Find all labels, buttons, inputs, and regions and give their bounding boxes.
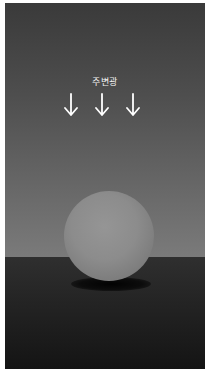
ambient-light-diagram: 주변광 [5, 3, 205, 369]
sphere [64, 191, 154, 281]
arrow-down-icon [126, 93, 140, 117]
arrow-down-icon [95, 93, 109, 117]
arrow-down-icon [64, 93, 78, 117]
ambient-light-label: 주변광 [5, 75, 205, 88]
